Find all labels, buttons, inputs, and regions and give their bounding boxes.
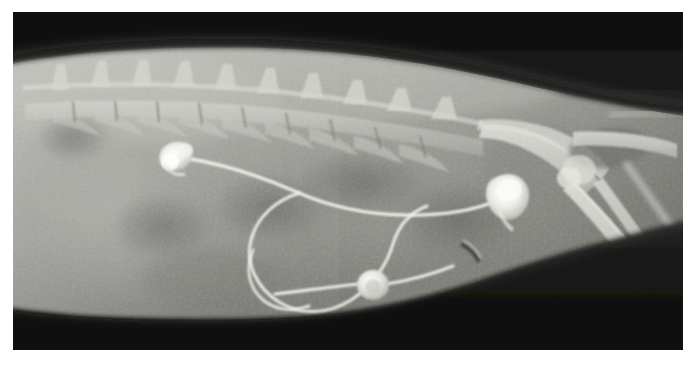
radiograph-image: [13, 12, 683, 350]
radiograph-canvas: [13, 12, 683, 350]
film-grain-coarse: [13, 12, 683, 350]
page-root: [0, 0, 697, 367]
